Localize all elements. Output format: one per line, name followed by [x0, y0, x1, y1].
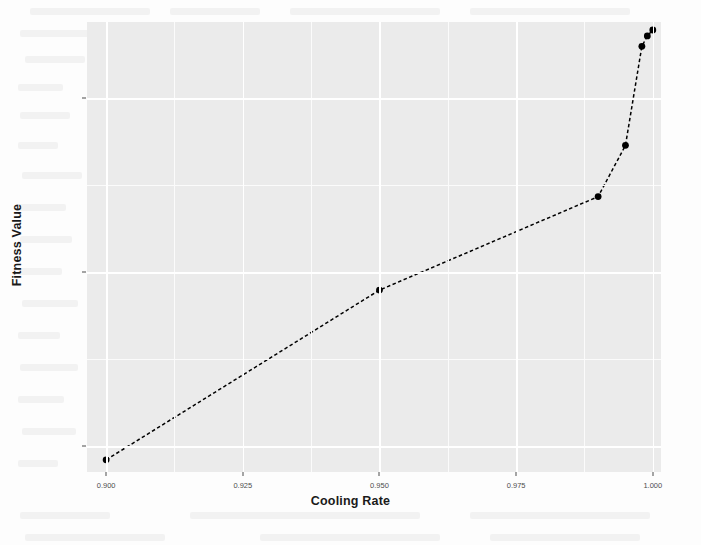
x-tick-label: 0.900	[97, 481, 116, 490]
y-axis-title: Fitness Value	[6, 0, 28, 490]
grid-line-vertical-major	[106, 22, 108, 472]
x-tick-label: 0.925	[233, 481, 252, 490]
y-axis-title-text: Fitness Value	[10, 204, 24, 287]
y-tick-mark	[82, 98, 86, 99]
grid-line-vertical-major	[653, 22, 655, 472]
y-tick-mark	[82, 272, 86, 273]
data-point	[622, 142, 629, 149]
x-tick-mark	[652, 472, 653, 476]
data-series-svg	[87, 22, 661, 472]
grid-line-vertical-minor	[174, 22, 175, 472]
x-axis-title: Cooling Rate	[0, 494, 701, 508]
x-tick-mark	[106, 472, 107, 476]
data-point	[644, 33, 651, 40]
x-tick-mark	[242, 472, 243, 476]
grid-line-horizontal-major	[87, 446, 661, 448]
plot-panel	[87, 22, 661, 472]
grid-line-horizontal-major	[87, 272, 661, 274]
x-tick-mark	[516, 472, 517, 476]
grid-line-horizontal-major	[87, 98, 661, 100]
x-tick-label: 0.975	[507, 481, 526, 490]
grid-line-vertical-minor	[311, 22, 312, 472]
data-point	[595, 193, 602, 200]
grid-line-horizontal-minor	[87, 185, 661, 186]
x-tick-label: 0.950	[370, 481, 389, 490]
grid-line-vertical-major	[379, 22, 381, 472]
grid-line-vertical-major	[516, 22, 518, 472]
y-tick-mark	[82, 445, 86, 446]
x-tick-mark	[379, 472, 380, 476]
grid-line-vertical-major	[243, 22, 245, 472]
data-point	[638, 43, 645, 50]
grid-line-horizontal-minor	[87, 359, 661, 360]
grid-line-vertical-minor	[584, 22, 585, 472]
chart-figure: 0.9000.9250.9500.9751.000-10000-20000-30…	[0, 0, 701, 545]
grid-line-vertical-minor	[448, 22, 449, 472]
x-tick-label: 1.000	[643, 481, 662, 490]
